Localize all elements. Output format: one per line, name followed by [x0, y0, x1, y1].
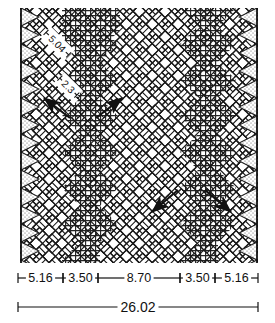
dimension-label: 5.16	[28, 271, 52, 285]
dimension-label: 8.70	[127, 271, 151, 285]
dimension-label: 3.50	[68, 271, 92, 285]
paving-pattern-drawing: 5.04 2.3 5.163.508.703.505.16 26.02	[0, 0, 275, 323]
dimension-label: 5.16	[224, 271, 248, 285]
dimension-label: 3.50	[185, 271, 209, 285]
dimension-label-total: 26.02	[120, 299, 155, 315]
